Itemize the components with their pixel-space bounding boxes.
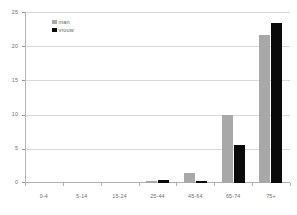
bar-chart: 25 20 15 10 5 0 0-4 5-14 15-24 25-44 45-… xyxy=(0,0,297,215)
bar-man xyxy=(146,181,157,183)
bar-group xyxy=(252,12,290,183)
bar-man xyxy=(259,35,270,183)
legend-label: man xyxy=(59,19,70,25)
bar-group xyxy=(139,12,177,183)
chart-legend: man vrouw xyxy=(52,18,74,34)
x-tick-label: 5-14 xyxy=(62,193,102,200)
bar-man xyxy=(222,115,233,183)
bar-vrouw xyxy=(196,181,207,183)
y-tick-label: 0 xyxy=(0,179,18,185)
y-tick-label: 10 xyxy=(0,111,18,117)
x-tick-label: 75+ xyxy=(251,193,291,200)
x-tick-label: 15-24 xyxy=(100,193,140,200)
legend-item-man: man xyxy=(52,18,74,26)
x-tick xyxy=(176,183,177,186)
y-tick-20 xyxy=(22,46,25,47)
legend-label: vrouw xyxy=(59,27,74,33)
y-tick-label: 25 xyxy=(0,9,18,15)
x-tick xyxy=(101,183,102,186)
y-tick-label: 5 xyxy=(0,145,18,151)
x-tick-label: 65-74 xyxy=(213,193,253,200)
y-tick-15 xyxy=(22,80,25,81)
bar-group xyxy=(25,12,63,183)
y-axis-line xyxy=(25,12,26,184)
x-tick xyxy=(214,183,215,186)
x-tick xyxy=(63,183,64,186)
bar-vrouw xyxy=(234,145,245,183)
plot-area xyxy=(25,12,290,183)
y-tick-5 xyxy=(22,149,25,150)
bar-vrouw xyxy=(271,23,282,183)
bar-vrouw xyxy=(158,180,169,183)
y-tick-10 xyxy=(22,115,25,116)
x-tick xyxy=(25,183,26,186)
y-tick-label: 15 xyxy=(0,77,18,83)
bar-man xyxy=(184,173,195,183)
bar-group xyxy=(176,12,214,183)
x-tick xyxy=(139,183,140,186)
x-tick-label: 25-44 xyxy=(138,193,178,200)
legend-item-vrouw: vrouw xyxy=(52,26,74,34)
x-tick xyxy=(252,183,253,186)
x-tick-label: 0-4 xyxy=(24,193,64,200)
y-tick-label: 20 xyxy=(0,43,18,49)
y-tick-25 xyxy=(22,12,25,13)
bar-group xyxy=(63,12,101,183)
legend-swatch-icon xyxy=(52,20,57,25)
bar-group xyxy=(101,12,139,183)
x-tick-label: 45-64 xyxy=(175,193,215,200)
bar-group xyxy=(214,12,252,183)
x-tick xyxy=(290,183,291,186)
legend-swatch-icon xyxy=(52,28,57,33)
